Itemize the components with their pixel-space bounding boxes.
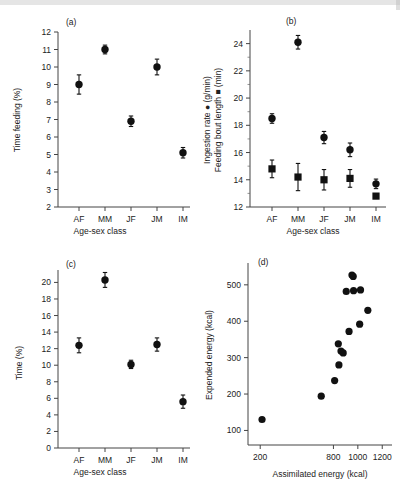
x-tick-label: JF — [126, 214, 135, 224]
panel-d-x-ticks: 20080010001200 — [253, 445, 392, 462]
data-marker-square — [346, 175, 353, 182]
y-tick-label: 6 — [46, 393, 51, 403]
y-tick-label: 18 — [234, 120, 244, 130]
y-tick-label: 16 — [234, 148, 244, 158]
y-tick-label: 2 — [46, 426, 51, 436]
x-tick-label: JM — [151, 214, 162, 224]
x-tick-label: 1000 — [348, 452, 367, 462]
y-tick-label: 4 — [46, 410, 51, 420]
panel-a-x-axis-title: Age-sex class — [74, 226, 127, 236]
data-marker-circle — [340, 349, 347, 356]
y-tick-label: 12 — [42, 344, 52, 354]
x-tick-label: AF — [74, 455, 85, 465]
panel-a-data-points — [75, 45, 186, 158]
data-marker-square — [320, 176, 327, 183]
x-tick-label: 800 — [326, 452, 340, 462]
y-tick-label: 12 — [234, 202, 244, 212]
data-marker-circle — [179, 398, 186, 405]
data-marker-circle — [294, 39, 301, 46]
panel-b-chart: 12141618202224 AFMMJFJMIM (b) Age-sex cl… — [200, 0, 400, 245]
panel-a-chart: 23456789101112 AFMMJFJMIM (a) Age-sex cl… — [0, 0, 200, 245]
panel-a-y-ticks: 23456789101112 — [42, 27, 58, 212]
y-tick-label: 400 — [227, 316, 241, 326]
data-marker-circle — [372, 180, 379, 187]
data-marker-circle — [350, 287, 357, 294]
data-marker-circle — [320, 134, 327, 141]
y-tick-label: 14 — [42, 327, 52, 337]
data-marker-circle — [127, 118, 134, 125]
y-tick-label: 20 — [234, 93, 244, 103]
data-marker-circle — [268, 115, 275, 122]
y-tick-label: 11 — [42, 45, 51, 55]
panel-c-chart: 02468101214161820 AFMMJFJMIM (c) Age-sex… — [0, 245, 200, 500]
y-tick-label: 12 — [42, 27, 52, 37]
panel-b-y-axis-title-line2: Feeding bout length ■ (min) — [213, 68, 223, 173]
data-marker-circle — [357, 286, 364, 293]
data-marker-square — [372, 193, 379, 200]
y-tick-label: 8 — [46, 97, 51, 107]
panel-b-y-ticks: 12141618202224 — [234, 39, 250, 212]
panel-a-y-axis-title: Time feeding (%) — [12, 88, 22, 153]
y-tick-label: 16 — [42, 311, 52, 321]
panel-b: 12141618202224 AFMMJFJMIM (b) Age-sex cl… — [200, 0, 400, 245]
panel-c-y-axis-title: Time (%) — [14, 346, 24, 380]
data-marker-circle — [101, 46, 108, 53]
y-tick-label: 10 — [42, 62, 52, 72]
panel-d-label: (d) — [258, 257, 269, 267]
x-tick-label: 1200 — [373, 452, 392, 462]
y-tick-label: 3 — [46, 185, 51, 195]
panel-c-data-points — [75, 272, 186, 408]
panel-d-x-axis-title: Assimilated energy (kcal) — [273, 469, 368, 479]
data-marker-circle — [101, 276, 108, 283]
y-tick-label: 24 — [234, 39, 244, 49]
y-tick-label: 10 — [42, 360, 52, 370]
x-tick-label: JM — [151, 455, 162, 465]
data-marker-circle — [127, 361, 134, 368]
y-tick-label: 9 — [46, 80, 51, 90]
y-tick-label: 2 — [46, 202, 51, 212]
y-tick-label: 500 — [227, 280, 241, 290]
x-tick-label: AF — [74, 214, 85, 224]
scan-artifact-corner — [396, 0, 400, 10]
x-tick-label: MM — [98, 214, 112, 224]
panel-a-axes — [58, 32, 190, 207]
data-marker-circle — [331, 377, 338, 384]
y-tick-label: 20 — [42, 277, 52, 287]
x-tick-label: JF — [126, 455, 135, 465]
panel-c-x-axis-title: Age-sex class — [74, 467, 127, 477]
scan-artifact-top-edge — [0, 0, 400, 5]
y-tick-label: 14 — [234, 175, 244, 185]
panel-d-axes — [248, 263, 392, 445]
data-marker-circle — [318, 393, 325, 400]
data-marker-circle — [356, 321, 363, 328]
data-marker-circle — [350, 273, 357, 280]
panel-b-data-points — [268, 35, 379, 199]
x-tick-label: IM — [371, 214, 380, 224]
data-marker-square — [294, 173, 301, 180]
panel-c: 02468101214161820 AFMMJFJMIM (c) Age-sex… — [0, 245, 200, 500]
panel-d-y-axis-title: Expended energy (kcal) — [204, 310, 214, 400]
data-marker-circle — [345, 328, 352, 335]
data-marker-circle — [346, 146, 353, 153]
y-tick-label: 4 — [46, 167, 51, 177]
panel-a: 23456789101112 AFMMJFJMIM (a) Age-sex cl… — [0, 0, 200, 245]
data-marker-circle — [179, 149, 186, 156]
y-tick-label: 100 — [227, 425, 241, 435]
x-tick-label: 200 — [253, 452, 267, 462]
data-marker-circle — [75, 81, 82, 88]
panel-c-y-ticks: 02468101214161820 — [42, 277, 58, 453]
panel-d-y-ticks: 100200300400500 — [227, 280, 248, 436]
panel-c-label: (c) — [66, 259, 76, 269]
panel-b-y-axis-title-line1: Ingestion rate ● (g/min) — [202, 76, 212, 164]
data-marker-square — [268, 165, 275, 172]
panel-d: 100200300400500 20080010001200 (d) Assim… — [200, 245, 400, 500]
panel-b-label: (b) — [286, 16, 297, 26]
x-tick-label: AF — [267, 214, 278, 224]
y-tick-label: 300 — [227, 353, 241, 363]
data-marker-circle — [343, 288, 350, 295]
y-tick-label: 0 — [46, 443, 51, 453]
panel-d-chart: 100200300400500 20080010001200 (d) Assim… — [200, 245, 400, 500]
x-tick-label: IM — [178, 455, 187, 465]
x-tick-label: IM — [178, 214, 187, 224]
data-marker-circle — [364, 307, 371, 314]
